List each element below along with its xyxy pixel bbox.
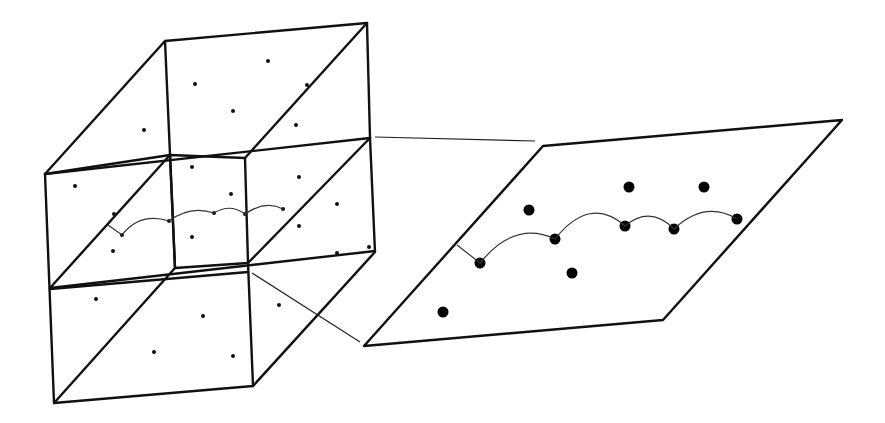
mid-plane-lower-front [50,251,375,288]
diagram-canvas [0,0,885,423]
left-diagonal-mid [50,155,170,288]
grid-cube [45,23,375,403]
plane-trajectory [457,211,737,263]
mid-plane-lower-inner [50,272,248,289]
cube-trajectory [108,205,283,235]
cube-outline [45,23,375,403]
plane-points [438,182,743,318]
projection-line-bottom [252,273,360,342]
right-diagonal-mid [248,138,370,263]
zoomed-plane [364,120,842,346]
mid-plane-upper-left [45,155,170,174]
cube-top-diagonal [245,23,367,158]
cube-front-edge [248,263,253,386]
projection-line-top [375,137,535,141]
cube-points [73,59,371,358]
plane-outline [364,120,842,346]
